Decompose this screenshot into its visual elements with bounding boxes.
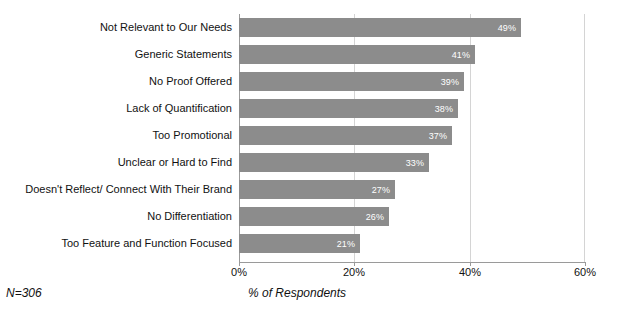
bar[interactable]: 27% [239,180,395,199]
bar-value-label: 37% [429,131,447,141]
bar-series: 49% 41% 39% 38% 37% [239,14,585,262]
bar-value-label: 38% [435,104,453,114]
bar-row: 21% [239,234,360,253]
bar-row: 39% [239,72,464,91]
bar[interactable]: 38% [239,99,458,118]
category-label: Unclear or Hard to Find [118,153,232,172]
bar[interactable]: 37% [239,126,452,145]
x-tick-label: 20% [343,266,365,278]
category-label: Generic Statements [135,45,232,64]
bar-row: 26% [239,207,389,226]
bar[interactable]: 49% [239,18,521,37]
category-label: Lack of Quantification [126,99,232,118]
bar-value-label: 27% [372,185,390,195]
x-axis-title: % of Respondents [248,286,346,300]
bar-row: 33% [239,153,429,172]
y-axis-category-labels: Not Relevant to Our Needs Generic Statem… [0,14,232,262]
plot-area: 49% 41% 39% 38% 37% [239,14,585,262]
bar-value-label: 49% [498,23,516,33]
bar-row: 38% [239,99,458,118]
x-axis-tick-labels: 0% 20% 40% 60% [239,266,585,282]
category-label: Too Promotional [153,126,233,145]
bar-row: 41% [239,45,475,64]
bar-value-label: 21% [337,239,355,249]
bar-value-label: 39% [441,77,459,87]
bar-row: 37% [239,126,452,145]
x-tick-label: 60% [574,266,596,278]
x-tick-label: 0% [231,266,247,278]
bar[interactable]: 41% [239,45,475,64]
category-label: No Differentiation [147,207,232,226]
category-label: No Proof Offered [149,72,232,91]
bar-value-label: 41% [452,50,470,60]
sample-size-annotation: N=306 [6,286,42,300]
category-label: Not Relevant to Our Needs [100,18,232,37]
bar[interactable]: 21% [239,234,360,253]
bar[interactable]: 33% [239,153,429,172]
x-axis-line [239,262,586,263]
bar[interactable]: 39% [239,72,464,91]
bar-value-label: 33% [406,158,424,168]
bar-row: 27% [239,180,395,199]
bar-value-label: 26% [366,212,384,222]
bar-row: 49% [239,18,521,37]
bar[interactable]: 26% [239,207,389,226]
x-tick-label: 40% [459,266,481,278]
category-label: Doesn't Reflect/ Connect With Their Bran… [25,180,232,199]
bar-chart-figure: Not Relevant to Our Needs Generic Statem… [0,0,626,312]
category-label: Too Feature and Function Focused [61,234,232,253]
